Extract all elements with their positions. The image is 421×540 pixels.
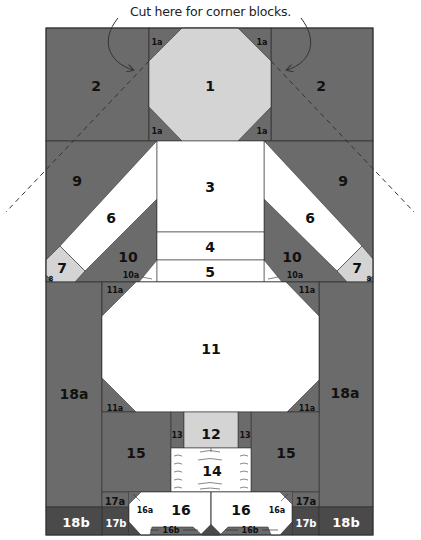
label-10-right: 10 [282,249,302,265]
label-18b-right: 18b [332,515,359,530]
label-16-right: 16 [231,502,250,518]
label-11a-tr: 11a [299,286,316,295]
label-16b-right: 16b [242,526,259,535]
middle-row [46,141,373,282]
label-16-left: 16 [171,502,190,518]
label-6-right: 6 [305,210,315,226]
label-18b-left: 18b [62,515,89,530]
label-1a-br: 1a [257,127,268,136]
label-15-left: 15 [126,445,145,461]
label-9-right: 9 [338,173,348,189]
label-1: 1 [205,78,215,94]
label-12: 12 [201,426,220,442]
label-11a-br: 11a [299,404,316,413]
block-13-left [171,412,184,448]
label-18a-left: 18a [60,386,89,402]
label-7-right: 7 [352,260,362,276]
label-16a-right: 16a [269,506,286,515]
label-10a-right: 10a [287,271,304,280]
quilt-block-diagram: 1 1a 1a 1a 1a 2 2 3 4 5 9 9 6 6 10 10 7 … [0,0,421,540]
label-9-left: 9 [72,173,82,189]
label-17b-left: 17b [105,518,126,529]
label-15-right: 15 [276,445,295,461]
label-13-right: 13 [239,431,250,440]
label-8-right: 8 [367,275,372,283]
label-2-left: 2 [91,78,101,94]
label-16b-left: 16b [163,526,180,535]
label-18a-right: 18a [331,385,360,401]
label-11a-tl: 11a [107,286,124,295]
label-17a-left: 17a [105,496,126,507]
label-14: 14 [202,463,222,479]
label-5: 5 [205,264,215,280]
label-17a-right: 17a [296,496,317,507]
label-2-right: 2 [316,78,326,94]
label-11a-bl: 11a [107,404,124,413]
label-3: 3 [205,179,215,195]
label-13-left: 13 [171,431,182,440]
label-8-left: 8 [49,275,54,283]
label-1a-tl: 1a [152,38,163,47]
label-17b-right: 17b [295,518,316,529]
label-10-left: 10 [118,249,138,265]
label-7-left: 7 [57,260,67,276]
label-4: 4 [205,239,215,255]
label-10a-left: 10a [123,271,140,280]
label-16a-left: 16a [137,506,154,515]
label-1a-bl: 1a [152,127,163,136]
block-13-right [238,412,251,448]
label-11: 11 [201,341,220,357]
label-6-left: 6 [106,210,116,226]
label-1a-tr: 1a [257,38,268,47]
